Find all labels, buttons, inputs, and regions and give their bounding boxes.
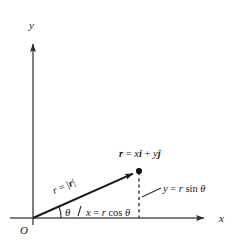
y-component-label-equals: = xyxy=(168,183,179,194)
y-component-leader-line xyxy=(142,188,161,197)
vector-label-plus: + xyxy=(142,148,153,159)
vector-diagram-figure: x y O r = xi + yj r = |r| θ x = rcos xyxy=(0,0,238,250)
x-axis-label: x xyxy=(218,212,224,224)
magnitude-label: r = |r| xyxy=(51,177,77,197)
y-component-label: y = rsinθ xyxy=(162,183,205,194)
x-component-label: x = rcosθ xyxy=(85,207,130,218)
diagram-canvas: x y O r = xi + yj r = |r| θ x = rcos xyxy=(0,0,238,250)
axes-group xyxy=(10,44,204,225)
vector-head-point xyxy=(136,168,142,174)
y-component-label-r: r xyxy=(179,183,184,194)
x-component-label-r: r xyxy=(102,207,107,218)
magnitude-label-group: r = |r| xyxy=(51,177,77,197)
x-component-label-theta: θ xyxy=(125,207,130,218)
vector-expression-label: r = xi + yj xyxy=(119,148,161,159)
y-axis-label: y xyxy=(28,19,34,31)
y-component-label-fn: sin xyxy=(185,183,198,194)
angle-arc xyxy=(59,206,61,218)
angle-arc-tick xyxy=(78,206,81,216)
x-component-label-equals: = xyxy=(91,207,102,218)
vector-label-equals: = xyxy=(123,148,134,159)
y-component-label-theta: θ xyxy=(200,183,205,194)
origin-label: O xyxy=(20,224,28,236)
x-component-label-fn: cos xyxy=(108,207,122,218)
angle-theta-label: θ xyxy=(65,206,71,218)
